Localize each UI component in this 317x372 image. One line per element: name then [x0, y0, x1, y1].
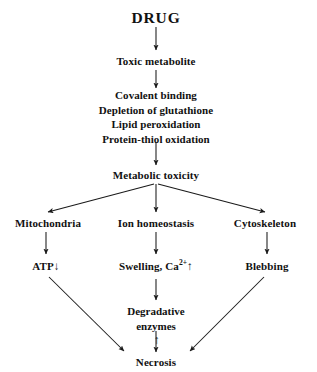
- node-degradative-enzymes: Degradative enzymes↑: [101, 304, 211, 349]
- node-mechanisms: Covalent binding Depletion of glutathion…: [99, 88, 213, 147]
- calcium-charge-superscript: 2+: [179, 258, 187, 267]
- node-drug: DRUG: [131, 8, 180, 28]
- down-arrow-icon: ↓: [54, 260, 60, 272]
- atp-label: ATP: [32, 260, 53, 272]
- node-mitochondria: Mitochondria: [15, 216, 81, 230]
- up-arrow-icon: ↑: [101, 333, 211, 349]
- node-atp: ATP↓: [32, 259, 59, 274]
- mechanism-item-covalent-binding: Covalent binding: [99, 88, 213, 103]
- edge-metabolic-toxicity-to-cytoskeleton: [158, 184, 265, 212]
- up-arrow-icon: ↑: [187, 260, 193, 272]
- swelling-label: Swelling, Ca: [119, 260, 179, 272]
- node-necrosis: Necrosis: [136, 355, 176, 369]
- node-metabolic-toxicity: Metabolic toxicity: [113, 168, 199, 182]
- edge-metabolic-toxicity-to-mitochondria: [48, 184, 154, 212]
- node-blebbing: Blebbing: [246, 259, 289, 273]
- diagram-canvas: DRUG Toxic metabolite Covalent binding D…: [0, 0, 317, 372]
- node-toxic-metabolite: Toxic metabolite: [116, 54, 195, 68]
- degradative-enzymes-line-1: Degradative: [101, 304, 211, 319]
- node-cytoskeleton: Cytoskeleton: [234, 216, 296, 230]
- mechanism-item-depletion-of-glutathione: Depletion of glutathione: [99, 103, 213, 118]
- degradative-enzymes-line-2: enzymes↑: [101, 319, 211, 349]
- node-ion-homeostasis: Ion homeostasis: [118, 216, 194, 230]
- degradative-enzymes-label-2: enzymes: [101, 319, 211, 334]
- node-swelling-calcium: Swelling, Ca2+↑: [119, 259, 193, 274]
- mechanism-item-lipid-peroxidation: Lipid peroxidation: [99, 117, 213, 132]
- mechanism-item-protein-thiol-oxidation: Protein-thiol oxidation: [99, 132, 213, 147]
